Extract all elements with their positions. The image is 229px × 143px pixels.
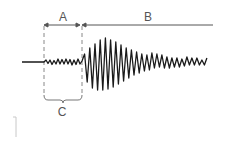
seismogram-svg [0,0,229,143]
label-b: B [144,11,152,23]
c-bracket [44,95,82,103]
seismic-waveform [22,38,207,90]
label-c: C [58,106,67,118]
corner-mark [13,117,16,137]
label-a: A [59,11,67,23]
